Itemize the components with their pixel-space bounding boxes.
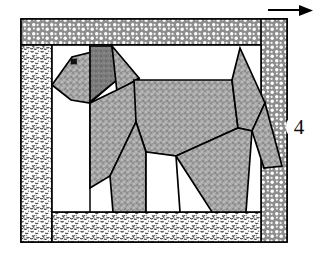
block-number-bubble: [286, 114, 312, 140]
dog-front-leg-inner: [146, 152, 180, 212]
top-border-band: [21, 19, 287, 45]
bottom-border-band: [52, 212, 261, 242]
direction-arrow: [268, 5, 313, 16]
block-pattern-illustration: [0, 0, 323, 263]
left-border-band: [21, 45, 52, 242]
diagram-canvas: 4: [0, 0, 323, 263]
dog-eye: [71, 59, 77, 64]
